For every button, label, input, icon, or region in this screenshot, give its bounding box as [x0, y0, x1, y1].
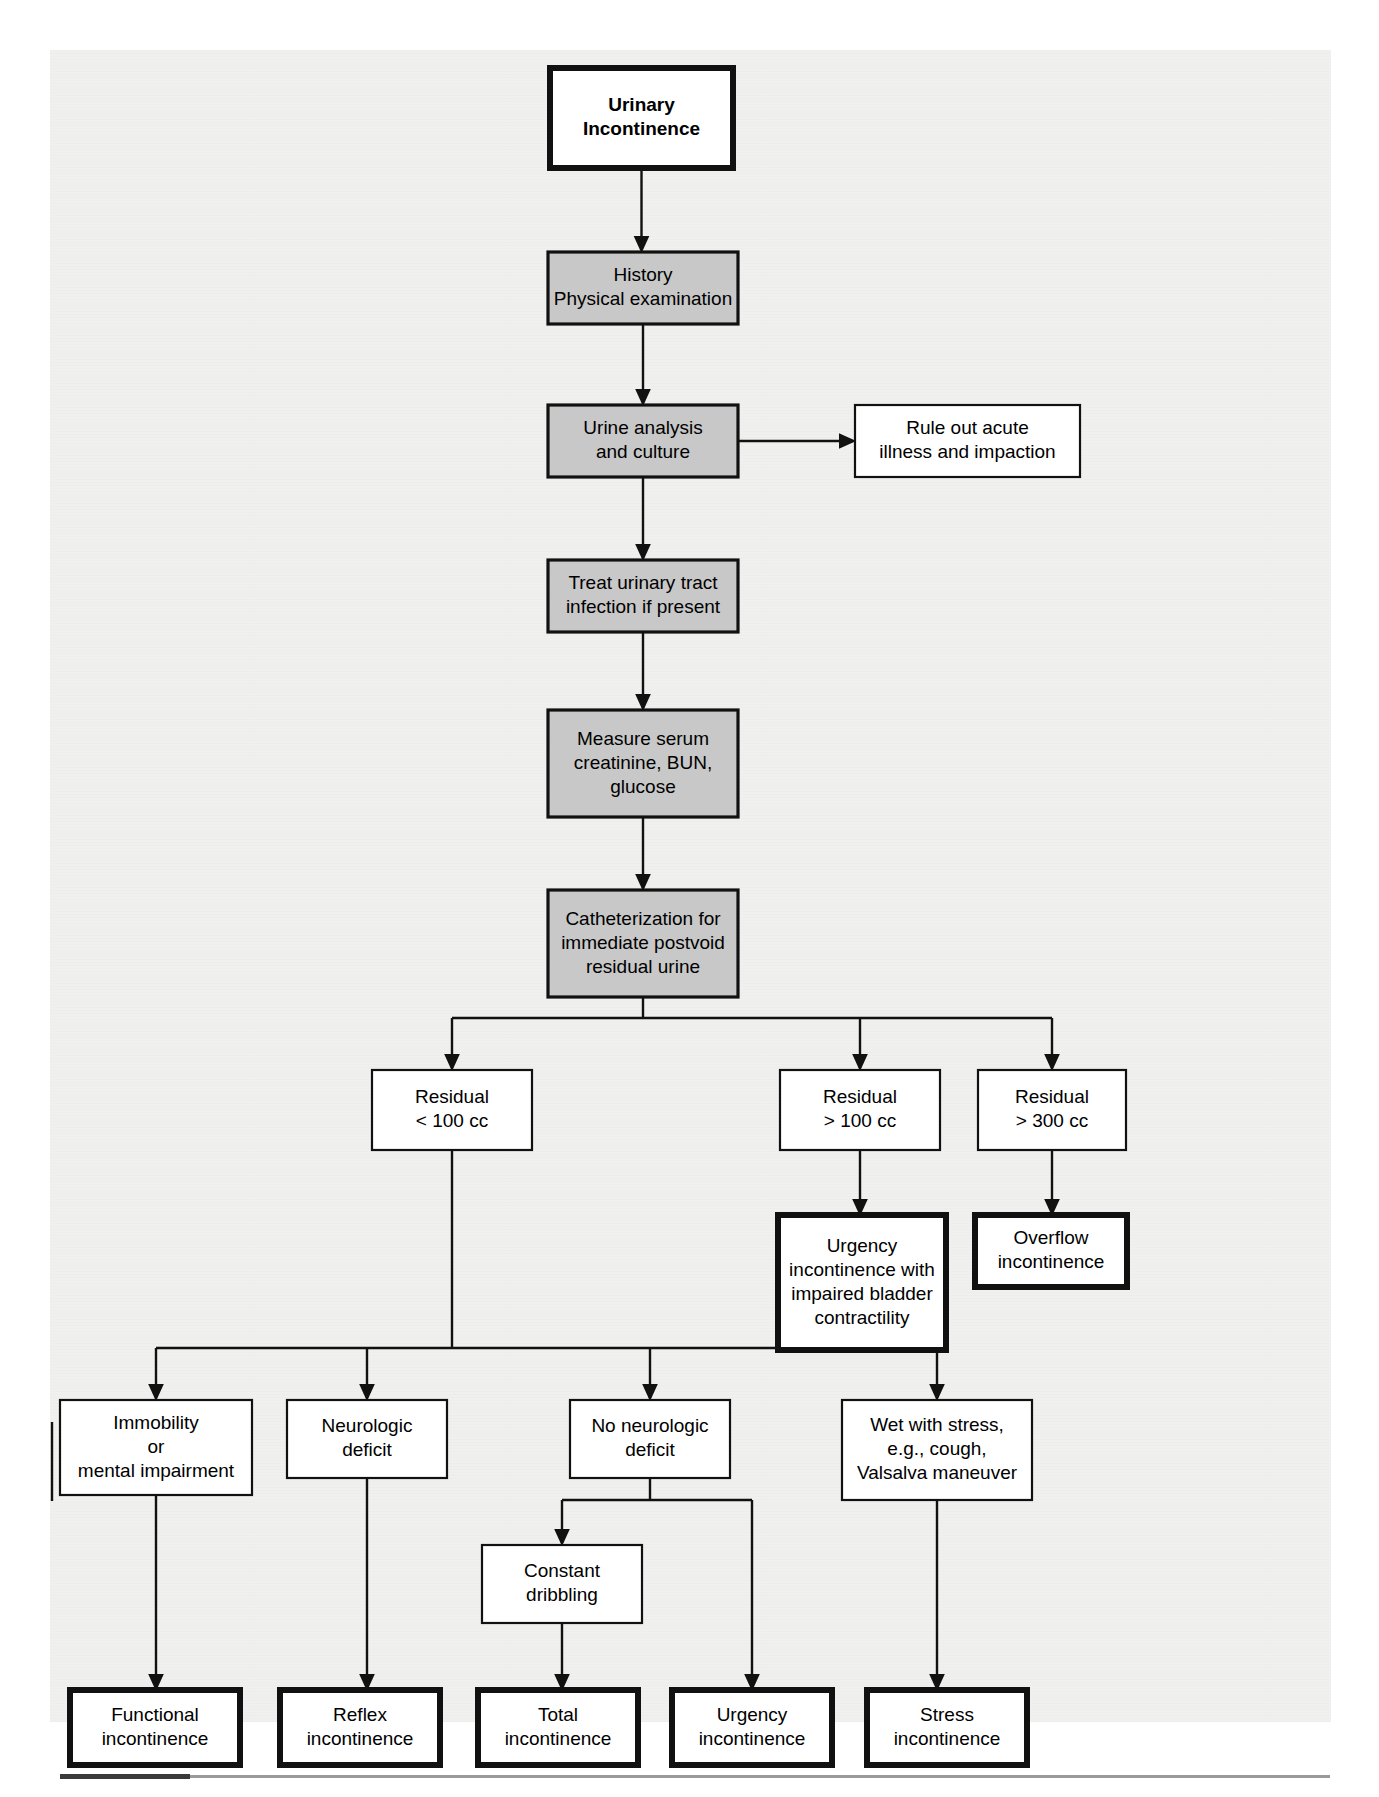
- node-label-line: Residual: [415, 1086, 489, 1107]
- node-urinary-incontinence[interactable]: UrinaryIncontinence: [550, 68, 733, 168]
- node-label-line: incontinence: [102, 1728, 209, 1749]
- node-label-line: Urgency: [827, 1235, 898, 1256]
- node-functional-incontinence[interactable]: Functionalincontinence: [70, 1690, 240, 1765]
- node-label-line: Stress: [920, 1704, 974, 1725]
- node-label-line: deficit: [342, 1439, 392, 1460]
- node-label-line: Residual: [823, 1086, 897, 1107]
- node-treat-urinary-tract-infection[interactable]: Treat urinary tractinfection if present: [548, 560, 738, 632]
- node-label-line: Treat urinary tract: [568, 572, 718, 593]
- node-urgency-incontinence-impaired-bladder-contractility[interactable]: Urgencyincontinence withimpaired bladder…: [778, 1215, 946, 1350]
- node-measure-serum-creatinine-bun-glucose[interactable]: Measure serumcreatinine, BUN,glucose: [548, 710, 738, 817]
- node-label-line: incontinence: [998, 1251, 1105, 1272]
- node-label-line: Urgency: [717, 1704, 788, 1725]
- node-label-line: incontinence: [505, 1728, 612, 1749]
- node-label-line: Constant: [524, 1560, 601, 1581]
- node-label-line: incontinence: [894, 1728, 1001, 1749]
- footer-rule-dark-segment: [60, 1774, 190, 1779]
- node-total-incontinence[interactable]: Totalincontinence: [478, 1690, 638, 1765]
- footer-rule: [60, 1775, 1330, 1778]
- node-no-neurologic-deficit[interactable]: No neurologicdeficit: [570, 1400, 730, 1478]
- node-label-line: incontinence with: [789, 1259, 935, 1280]
- node-label-line: Incontinence: [583, 118, 700, 139]
- node-label-line: Overflow: [1014, 1227, 1089, 1248]
- node-urgency-incontinence[interactable]: Urgencyincontinence: [672, 1690, 832, 1765]
- node-label-line: Measure serum: [577, 728, 709, 749]
- node-constant-dribbling[interactable]: Constantdribbling: [482, 1545, 642, 1623]
- node-label-line: incontinence: [307, 1728, 414, 1749]
- node-residual-greater-than-100-cc[interactable]: Residual> 100 cc: [780, 1070, 940, 1150]
- node-label-line: > 300 cc: [1016, 1110, 1088, 1131]
- node-label-line: History: [613, 264, 673, 285]
- node-label-line: Urine analysis: [583, 417, 702, 438]
- node-rule-out-acute-illness-and-impaction[interactable]: Rule out acuteillness and impaction: [855, 405, 1080, 477]
- node-label-line: Functional: [111, 1704, 199, 1725]
- node-urine-analysis-and-culture[interactable]: Urine analysisand culture: [548, 405, 738, 477]
- node-label-line: illness and impaction: [879, 441, 1055, 462]
- node-label-line: Urinary: [608, 94, 675, 115]
- node-label-line: contractility: [814, 1307, 910, 1328]
- node-label-line: immediate postvoid: [561, 932, 725, 953]
- node-catheterization-postvoid-residual[interactable]: Catheterization forimmediate postvoidres…: [548, 890, 738, 997]
- node-label-line: > 100 cc: [824, 1110, 896, 1131]
- node-stress-incontinence[interactable]: Stressincontinence: [867, 1690, 1027, 1765]
- node-label-line: Residual: [1015, 1086, 1089, 1107]
- node-neurologic-deficit[interactable]: Neurologicdeficit: [287, 1400, 447, 1478]
- node-label-line: Rule out acute: [906, 417, 1029, 438]
- node-label-line: < 100 cc: [416, 1110, 488, 1131]
- node-label-line: Physical examination: [554, 288, 732, 309]
- node-label-line: and culture: [596, 441, 690, 462]
- node-label-line: deficit: [625, 1439, 675, 1460]
- node-label-line: mental impairment: [78, 1460, 235, 1481]
- node-residual-less-than-100-cc[interactable]: Residual< 100 cc: [372, 1070, 532, 1150]
- node-label-line: dribbling: [526, 1584, 598, 1605]
- flowchart: UrinaryIncontinenceHistoryPhysical exami…: [0, 0, 1379, 1797]
- nodes-layer: UrinaryIncontinenceHistoryPhysical exami…: [60, 68, 1127, 1765]
- node-label-line: No neurologic: [591, 1415, 708, 1436]
- node-label-line: or: [148, 1436, 166, 1457]
- node-label-line: Wet with stress,: [870, 1414, 1004, 1435]
- node-label-line: Immobility: [113, 1412, 199, 1433]
- node-label-line: residual urine: [586, 956, 700, 977]
- node-label-line: incontinence: [699, 1728, 806, 1749]
- node-label-line: glucose: [610, 776, 676, 797]
- node-immobility-or-mental-impairment[interactable]: Immobilityormental impairment: [60, 1400, 252, 1495]
- node-label-line: e.g., cough,: [887, 1438, 986, 1459]
- node-wet-with-stress[interactable]: Wet with stress,e.g., cough,Valsalva man…: [842, 1400, 1032, 1500]
- node-overflow-incontinence[interactable]: Overflowincontinence: [975, 1215, 1127, 1287]
- node-reflex-incontinence[interactable]: Reflexincontinence: [280, 1690, 440, 1765]
- node-label-line: Reflex: [333, 1704, 387, 1725]
- node-label-line: creatinine, BUN,: [574, 752, 712, 773]
- node-label-line: Neurologic: [322, 1415, 413, 1436]
- node-residual-greater-than-300-cc[interactable]: Residual> 300 cc: [978, 1070, 1126, 1150]
- node-label-line: infection if present: [566, 596, 721, 617]
- node-label-line: Catheterization for: [565, 908, 721, 929]
- page-canvas: UrinaryIncontinenceHistoryPhysical exami…: [0, 0, 1379, 1797]
- node-label-line: Total: [538, 1704, 578, 1725]
- node-history-physical-examination[interactable]: HistoryPhysical examination: [548, 252, 738, 324]
- node-label-line: impaired bladder: [791, 1283, 933, 1304]
- node-label-line: Valsalva maneuver: [857, 1462, 1018, 1483]
